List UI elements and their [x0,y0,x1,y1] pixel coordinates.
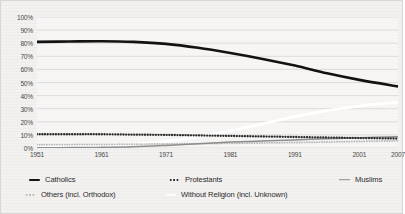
legend-item-label: Protestants [185,175,222,184]
legend-item[interactable]: Protestants [169,175,222,184]
y-axis-tick-label: 70% [3,53,33,60]
y-axis-tick-label: 0% [3,145,33,152]
legend-item[interactable]: Muslims [339,175,382,184]
y-axis-tick-label: 40% [3,92,33,99]
legend-item-label: Others (incl. Orthodox) [41,190,116,199]
legend-item[interactable]: Others (incl. Orthodox) [25,190,116,199]
chart-legend: CatholicsProtestantsMuslimsOthers (incl.… [1,173,404,213]
legend-item-label: Muslims [355,175,382,184]
legend-item-label: Catholics [45,175,75,184]
series-line [37,102,398,146]
legend-swatch-icon [165,190,176,199]
y-axis-tick-label: 30% [3,105,33,112]
legend-swatch-icon [29,175,40,184]
legend-swatch-icon [339,175,350,184]
x-axis-tick-label: 2007 [391,151,405,158]
x-axis-tick-label: 1971 [159,151,173,158]
y-axis-tick-label: 60% [3,66,33,73]
series-line [37,41,398,86]
legend-swatch-icon [25,190,36,199]
legend-item-label: Without Religion (incl. Unknown) [181,190,288,199]
legend-item[interactable]: Catholics [29,175,75,184]
x-axis-tick-label: 2001 [352,151,366,158]
legend-item[interactable]: Without Religion (incl. Unknown) [165,190,288,199]
x-axis-tick-label: 1991 [288,151,302,158]
legend-swatch-icon [169,175,180,184]
series-line [37,134,398,138]
y-axis-tick-label: 90% [3,27,33,34]
series-lines [37,17,398,148]
y-axis-tick-label: 100% [3,14,33,21]
y-axis-tick-label: 10% [3,131,33,138]
y-axis-tick-label: 20% [3,118,33,125]
y-axis-tick-label: 80% [3,40,33,47]
x-axis-tick-label: 1961 [95,151,109,158]
x-axis-tick-label: 1951 [30,151,44,158]
x-axis-tick-label: 1981 [223,151,237,158]
y-axis-tick-label: 50% [3,79,33,86]
plot-area [37,17,398,148]
